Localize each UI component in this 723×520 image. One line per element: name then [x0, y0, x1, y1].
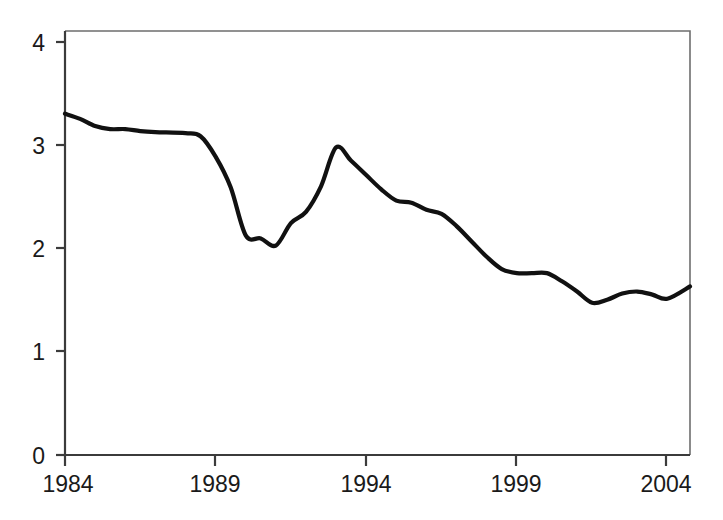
- line-chart: 4 3 2 1 0 1984 1989 1994 1999 2004: [0, 0, 723, 520]
- x-tick-label-2004: 2004: [640, 471, 691, 497]
- y-tick-labels: 4 3 2 1 0: [32, 30, 45, 469]
- chart-canvas: 4 3 2 1 0 1984 1989 1994 1999 2004: [0, 0, 723, 520]
- y-tick-label-3: 3: [32, 133, 45, 159]
- x-tick-labels: 1984 1989 1994 1999 2004: [42, 471, 691, 497]
- plot-frame-top-right: [65, 31, 690, 455]
- x-tick-marks: [65, 455, 666, 466]
- y-tick-label-2: 2: [32, 236, 45, 262]
- x-tick-label-1999: 1999: [490, 471, 541, 497]
- x-tick-label-1984: 1984: [42, 471, 93, 497]
- y-tick-label-1: 1: [32, 339, 45, 365]
- y-tick-label-4: 4: [32, 30, 45, 56]
- y-tick-label-0: 0: [32, 443, 45, 469]
- x-tick-label-1989: 1989: [189, 471, 240, 497]
- x-tick-label-1994: 1994: [340, 471, 391, 497]
- y-tick-marks: [56, 42, 65, 455]
- data-series-line: [65, 114, 690, 303]
